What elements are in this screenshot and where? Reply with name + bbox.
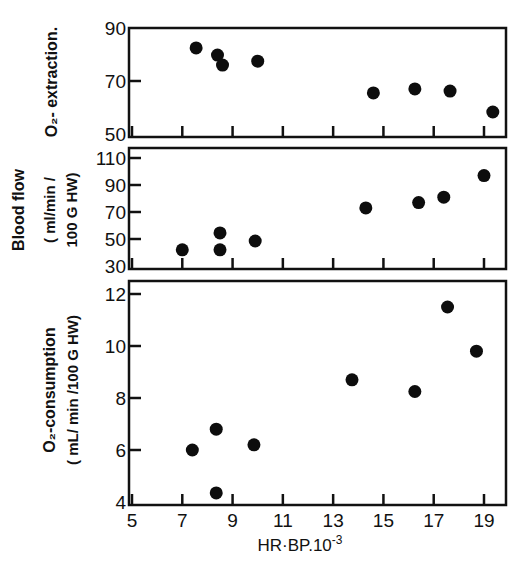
- x-axis-title: HR·BP.10-3: [257, 533, 342, 555]
- panel-o2-consumption: 1210864 O₂-consumption ( mL/ min /100 G …: [41, 281, 506, 513]
- y-ticks: 11090705030: [96, 148, 141, 277]
- data-point: [214, 243, 227, 256]
- data-points: [190, 41, 500, 118]
- data-point: [247, 438, 260, 451]
- y-axis-units-line2: 100 G HW): [63, 172, 80, 247]
- y-axis-units: ( mL/ min /100 G HW): [64, 315, 81, 465]
- x-tick-label: 9: [227, 510, 238, 531]
- y-tick-label: 70: [105, 202, 126, 223]
- y-axis-units-line1: ( ml/min /: [41, 176, 58, 243]
- data-point: [210, 423, 223, 436]
- y-axis-title: O₂-consumption: [41, 327, 58, 452]
- data-points: [176, 169, 491, 256]
- y-tick-label: 110: [96, 148, 126, 169]
- x-tick-label: 5: [127, 510, 138, 531]
- y-tick-label: 30: [105, 256, 126, 277]
- data-point: [367, 86, 380, 99]
- y-tick-label: 50: [105, 124, 126, 145]
- x-tick-label: 7: [177, 510, 188, 531]
- data-points: [186, 301, 483, 500]
- y-tick-label: 90: [105, 18, 126, 39]
- data-point: [437, 191, 450, 204]
- plot-frame: [129, 281, 506, 505]
- x-tick-label: 17: [423, 510, 444, 531]
- x-tick-label: 15: [373, 510, 394, 531]
- data-point: [186, 444, 199, 457]
- y-tick-label: 10: [105, 336, 126, 357]
- x-ticks: [132, 258, 484, 269]
- y-tick-label: 8: [115, 388, 126, 409]
- data-point: [408, 82, 421, 95]
- data-point: [359, 201, 372, 214]
- y-tick-label: 4: [115, 492, 126, 513]
- data-point: [478, 169, 491, 182]
- data-point: [210, 486, 223, 499]
- chart-canvas: 907050 O₂- extraction. 11090705030 Blood…: [0, 0, 514, 562]
- y-ticks: 1210864: [105, 284, 141, 513]
- x-tick-label: 11: [273, 510, 293, 531]
- y-tick-label: 12: [105, 284, 126, 305]
- data-point: [216, 59, 229, 72]
- data-point: [412, 196, 425, 209]
- scatter-figure: 907050 O₂- extraction. 11090705030 Blood…: [0, 0, 514, 562]
- x-ticks: [132, 126, 484, 137]
- x-tick-label: 19: [473, 510, 494, 531]
- data-point: [251, 55, 264, 68]
- panel-o2-extraction: 907050 O₂- extraction.: [43, 18, 506, 145]
- data-point: [444, 85, 457, 98]
- y-ticks: 907050: [105, 18, 141, 145]
- x-axis-tick-labels: 5791113151719: [127, 510, 495, 531]
- data-point: [470, 345, 483, 358]
- x-ticks: [132, 494, 484, 505]
- y-tick-label: 70: [105, 71, 126, 92]
- data-point: [214, 226, 227, 239]
- plot-frame: [129, 28, 506, 137]
- y-tick-label: 50: [105, 229, 126, 250]
- data-point: [408, 385, 421, 398]
- y-tick-label: 90: [105, 175, 126, 196]
- data-point: [249, 235, 262, 248]
- data-point: [486, 106, 499, 119]
- y-tick-label: 6: [115, 440, 126, 461]
- x-tick-label: 13: [323, 510, 344, 531]
- y-axis-title: Blood flow: [10, 169, 27, 251]
- data-point: [346, 373, 359, 386]
- panel-blood-flow: 11090705030 Blood flow ( ml/min / 100 G …: [10, 148, 506, 277]
- data-point: [441, 301, 454, 314]
- y-axis-title: O₂- extraction.: [43, 27, 60, 137]
- data-point: [190, 41, 203, 54]
- data-point: [176, 243, 189, 256]
